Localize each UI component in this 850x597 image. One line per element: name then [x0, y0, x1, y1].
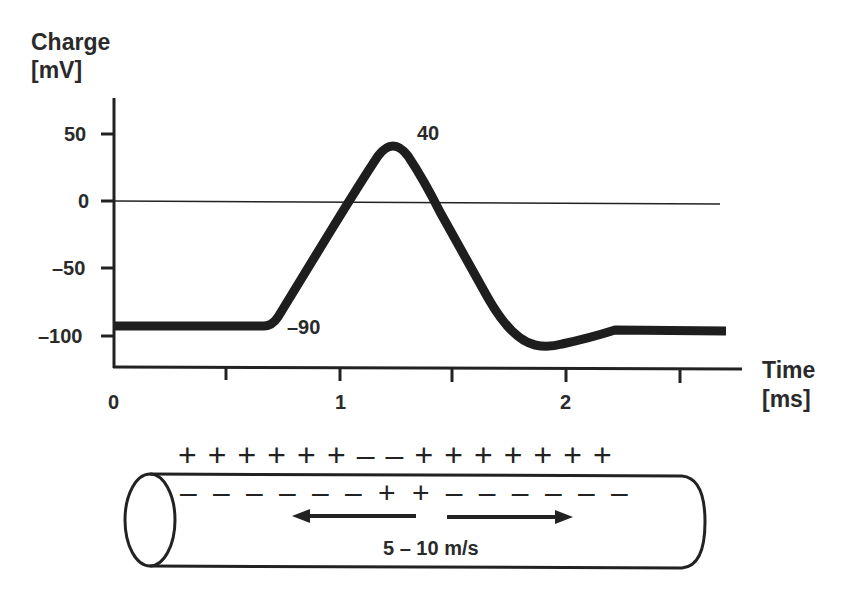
x-tick-label-2: 2: [560, 391, 571, 414]
y-axis-title: Charge [mV]: [31, 28, 110, 84]
y-tick-label-m100: –100: [38, 325, 83, 348]
axon-cross-section: [125, 474, 175, 566]
inner-charges: – – – – – – + + – – – – – –: [180, 476, 631, 510]
zero-line: [114, 201, 720, 204]
y-axis-title-line1: Charge: [31, 28, 110, 56]
y-tick-label-50: 50: [64, 123, 86, 146]
y-tick-label-m50: –50: [52, 257, 85, 280]
x-axis: [113, 367, 742, 369]
x-tick-label-0: 0: [108, 391, 119, 414]
conduction-speed-label: 5 – 10 m/s: [383, 537, 479, 560]
peak-annotation: 40: [417, 122, 439, 145]
outer-charges: + + + + + + – – + + + + + + +: [178, 437, 613, 474]
rest-annotation: –90: [287, 316, 320, 339]
x-axis-title: Time [ms]: [762, 356, 815, 414]
x-tick-label-1: 1: [335, 391, 346, 414]
x-axis-title-line2: [ms]: [762, 385, 815, 414]
y-tick-label-0: 0: [78, 190, 89, 213]
arrow-right-icon: [555, 510, 573, 524]
arrow-left-icon: [292, 509, 310, 523]
action-potential-curve: [114, 146, 726, 346]
y-axis-title-line2: [mV]: [31, 56, 110, 84]
x-axis-title-line1: Time: [762, 356, 815, 385]
